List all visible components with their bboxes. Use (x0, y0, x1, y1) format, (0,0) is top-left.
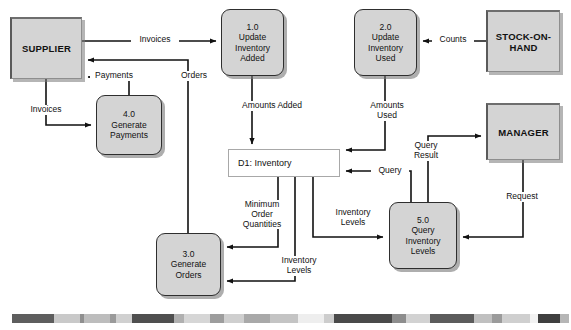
scan-segment (132, 314, 174, 323)
flow-label-payments: Payments (90, 71, 138, 81)
datastore-d1-label: D1: Inventory (238, 158, 292, 169)
flow-label-request: Request (497, 192, 547, 202)
flow-label-invoices-to-p1: Invoices (131, 35, 179, 45)
scan-segment (324, 314, 334, 323)
scan-segment (406, 314, 430, 323)
entity-manager-label: MANAGER (498, 127, 548, 138)
process-3-label: 3.0 Generate Orders (171, 249, 206, 281)
scan-segment (538, 314, 560, 323)
scan-segment (530, 314, 538, 323)
scan-segment (392, 314, 406, 323)
process-1-update-inventory-added[interactable]: 1.0 Update Inventory Added (221, 9, 284, 76)
flow-label-orders: Orders (174, 71, 214, 81)
scan-segment (84, 314, 110, 323)
process-2-update-inventory-used[interactable]: 2.0 Update Inventory Used (354, 9, 417, 76)
scan-segment (560, 314, 569, 323)
scan-segment (298, 314, 324, 323)
flow-label-inventory-levels-p5: Inventory Levels (324, 208, 382, 228)
dfd-canvas: SUPPLIER STOCK-ON- HAND MANAGER 1.0 Upda… (0, 0, 571, 330)
scan-segment (224, 314, 244, 323)
entity-stock-on-hand[interactable]: STOCK-ON- HAND (486, 10, 560, 72)
process-5-label: 5.0 Query Inventory Levels (406, 215, 441, 257)
flow-label-amounts-added: Amounts Added (232, 101, 312, 111)
process-1-label: 1.0 Update Inventory Added (235, 22, 270, 64)
scan-segment (502, 314, 530, 323)
flow-line-invoices-to-p4 (46, 79, 91, 125)
scan-segment (474, 314, 492, 323)
datastore-d1-inventory[interactable]: D1: Inventory (228, 149, 340, 177)
entity-manager[interactable]: MANAGER (486, 103, 560, 160)
entity-stock-on-hand-label: STOCK-ON- HAND (496, 31, 551, 53)
scan-segment (244, 314, 270, 323)
flow-label-inventory-levels-p3: Inventory Levels (269, 256, 329, 276)
process-3-generate-orders[interactable]: 3.0 Generate Orders (156, 233, 221, 296)
flow-label-query-result: Query Result (404, 141, 448, 161)
process-4-generate-payments[interactable]: 4.0 Generate Payments (96, 95, 162, 155)
scan-segment (174, 314, 184, 323)
entity-supplier-label: SUPPLIER (22, 43, 71, 54)
scan-segment (116, 314, 132, 323)
process-2-label: 2.0 Update Inventory Used (368, 22, 403, 64)
scan-segment (270, 314, 298, 323)
scan-segment (430, 314, 474, 323)
scan-segment (54, 314, 80, 323)
scan-segment (12, 314, 54, 323)
scan-artifact-strip (0, 314, 571, 323)
scan-segment (210, 314, 224, 323)
flow-label-invoices-to-p4: Invoices (22, 105, 70, 115)
flow-label-query: Query (371, 166, 409, 176)
flow-label-counts: Counts (432, 35, 474, 45)
entity-supplier[interactable]: SUPPLIER (10, 17, 82, 79)
scan-segment (184, 314, 210, 323)
flow-label-minimum-order-quantities: Minimum Order Quantities (232, 200, 292, 229)
process-5-query-inventory-levels[interactable]: 5.0 Query Inventory Levels (389, 202, 457, 269)
scan-segment (492, 314, 502, 323)
flow-label-amounts-used: Amounts Used (364, 101, 410, 121)
process-4-label: 4.0 Generate Payments (110, 109, 148, 141)
scan-segment (334, 314, 392, 323)
